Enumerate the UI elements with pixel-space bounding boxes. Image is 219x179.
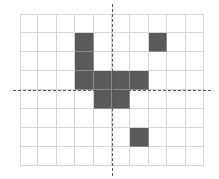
grid-cell xyxy=(112,52,130,71)
grid-cell xyxy=(167,128,185,147)
grid-cell xyxy=(149,90,167,109)
grid-cell xyxy=(38,147,56,166)
grid-cell xyxy=(186,33,204,52)
grid-cell xyxy=(94,109,112,128)
grid-cell xyxy=(57,33,75,52)
grid-cell xyxy=(112,128,130,147)
grid-cell xyxy=(130,147,148,166)
grid-cell xyxy=(38,52,56,71)
grid-cell xyxy=(149,128,167,147)
filled-cell xyxy=(112,90,130,109)
grid-cell xyxy=(186,147,204,166)
grid-cell xyxy=(167,33,185,52)
grid-cell xyxy=(167,52,185,71)
grid-cell xyxy=(57,147,75,166)
grid-cell xyxy=(75,90,93,109)
grid-cell xyxy=(38,14,56,33)
grid-cell xyxy=(20,14,38,33)
grid-cell xyxy=(38,109,56,128)
filled-cell xyxy=(130,128,148,147)
grid-cell xyxy=(130,52,148,71)
grid-cell xyxy=(186,128,204,147)
grid-cell xyxy=(130,109,148,128)
grid-cell xyxy=(75,128,93,147)
grid-cell xyxy=(94,52,112,71)
grid-cell xyxy=(57,14,75,33)
grid-cell xyxy=(20,71,38,90)
grid-cell xyxy=(20,52,38,71)
grid-cell xyxy=(112,14,130,33)
grid-cell xyxy=(20,147,38,166)
grid-cell xyxy=(57,71,75,90)
grid-cell xyxy=(94,14,112,33)
grid-cell xyxy=(149,52,167,71)
grid-cell xyxy=(20,109,38,128)
grid-cell xyxy=(130,33,148,52)
grid-cell xyxy=(167,90,185,109)
grid-cell xyxy=(94,147,112,166)
grid-cell xyxy=(38,128,56,147)
grid-cell xyxy=(167,71,185,90)
filled-cell xyxy=(75,52,93,71)
grid-cell xyxy=(20,128,38,147)
filled-cell xyxy=(75,71,93,90)
grid-cell xyxy=(94,33,112,52)
grid-cell xyxy=(75,147,93,166)
grid-cell xyxy=(57,90,75,109)
grid-cell xyxy=(57,109,75,128)
grid-cell xyxy=(75,109,93,128)
grid-cell xyxy=(112,33,130,52)
grid-cell xyxy=(38,33,56,52)
grid-cell xyxy=(38,71,56,90)
grid-cell xyxy=(20,33,38,52)
grid-cell xyxy=(130,90,148,109)
grid-cell xyxy=(149,147,167,166)
grid-cell xyxy=(167,109,185,128)
grid-cell xyxy=(167,147,185,166)
vertical-axis xyxy=(112,4,113,176)
filled-cell xyxy=(94,71,112,90)
grid-cell xyxy=(186,71,204,90)
grid-cell xyxy=(112,109,130,128)
grid-cell xyxy=(186,52,204,71)
grid-cell xyxy=(20,90,38,109)
grid-cell xyxy=(186,109,204,128)
filled-cell xyxy=(75,33,93,52)
filled-cell xyxy=(149,33,167,52)
grid-cell xyxy=(94,128,112,147)
grid-cell xyxy=(75,14,93,33)
filled-cell xyxy=(112,71,130,90)
grid-cell xyxy=(167,14,185,33)
grid-cell xyxy=(186,90,204,109)
grid-cell xyxy=(57,128,75,147)
grid-cell xyxy=(149,14,167,33)
grid-cell xyxy=(149,71,167,90)
filled-cell xyxy=(130,71,148,90)
grid-cell xyxy=(149,109,167,128)
filled-cell xyxy=(94,90,112,109)
grid-cell xyxy=(38,90,56,109)
grid-cell xyxy=(57,52,75,71)
grid-cell xyxy=(130,14,148,33)
grid-cell xyxy=(112,147,130,166)
grid-cell xyxy=(186,14,204,33)
